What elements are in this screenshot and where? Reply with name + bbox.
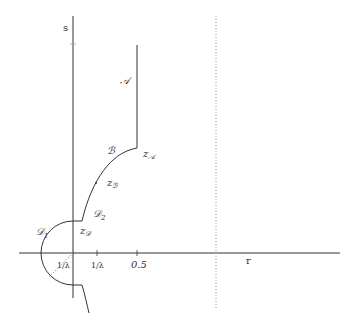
tick-label-inv-lambda-right: 1/λ [91,261,104,270]
point-label-zA: z𝒜 [142,148,157,161]
point-label-zD: z𝒟 [79,225,92,238]
s-axis-label: s [63,22,68,33]
tick-label-inv-lambda-left: 1/λ [57,261,70,270]
region-label-A: 𝒜 [120,75,133,86]
lower-curve [82,285,89,313]
region-label-B: ℬ [107,145,116,156]
region-label-D1: 𝒟1 [36,226,48,240]
fundamental-domain-diagram: s r 1/λ 1/λ 0.5 𝒜 ℬ 𝒟1 𝒟2 z𝒜 zℬ z𝒟 [0,0,356,329]
region-label-D2: 𝒟2 [93,208,106,222]
r-axis-label: r [246,255,251,266]
point-label-zB: zℬ [106,177,118,190]
diagram-canvas: s r 1/λ 1/λ 0.5 𝒜 ℬ 𝒟1 𝒟2 z𝒜 zℬ z𝒟 [0,0,356,329]
point-zB [95,182,97,184]
tick-label-half: 0.5 [131,259,147,270]
